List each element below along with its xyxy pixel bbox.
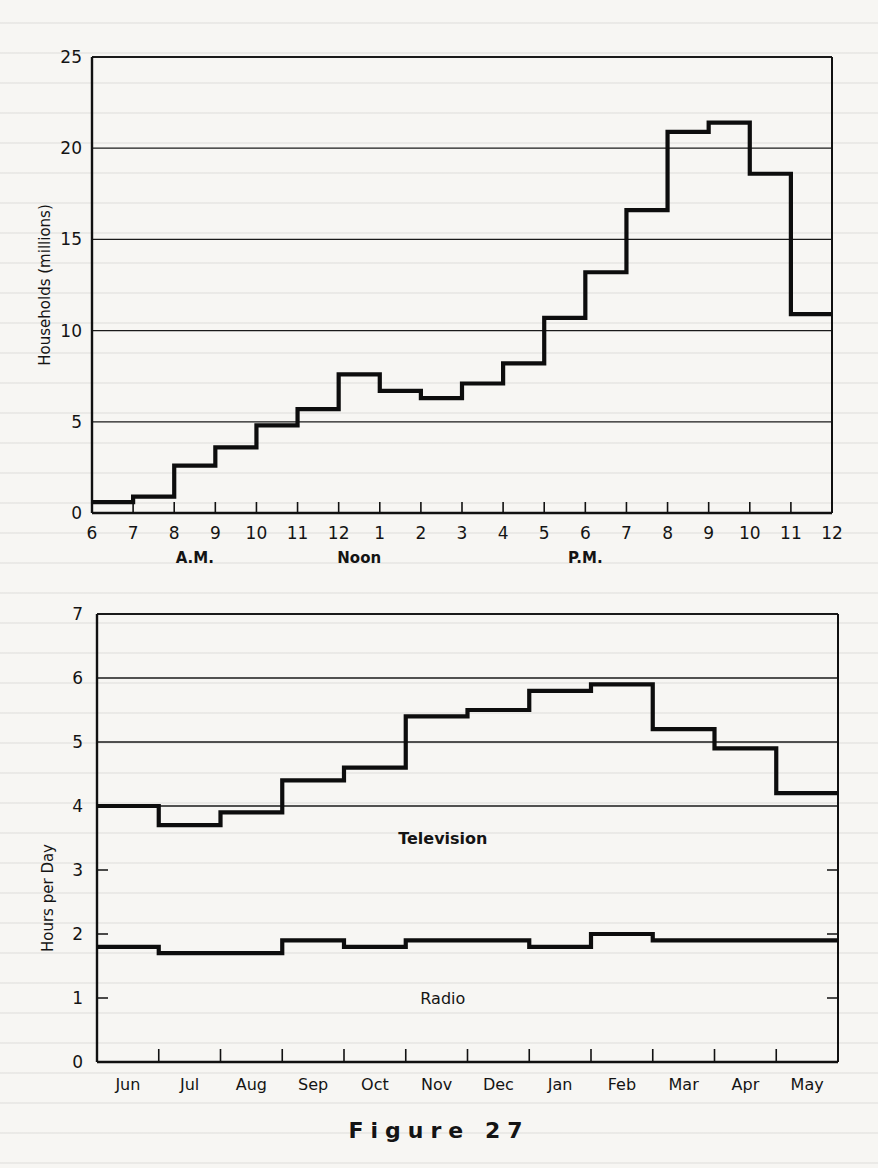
figure-caption: Figure 27 bbox=[0, 1118, 878, 1143]
x-tick-label: Jul bbox=[179, 1075, 199, 1094]
x-tick-label: Aug bbox=[236, 1075, 267, 1094]
series-annotation: Television bbox=[398, 829, 487, 848]
y-tick-label: 6 bbox=[72, 668, 83, 688]
y-tick-label: 4 bbox=[72, 796, 83, 816]
x-tick-label: Nov bbox=[421, 1075, 452, 1094]
x-tick-label: Apr bbox=[732, 1075, 760, 1094]
x-tick-label: Mar bbox=[669, 1075, 700, 1094]
x-tick-label: Jun bbox=[114, 1075, 140, 1094]
y-tick-label: 0 bbox=[72, 1052, 83, 1072]
x-tick-label: Sep bbox=[298, 1075, 328, 1094]
x-tick-label: Feb bbox=[608, 1075, 636, 1094]
x-tick-label: May bbox=[791, 1075, 824, 1094]
y-tick-label: 3 bbox=[72, 860, 83, 880]
x-tick-label: Dec bbox=[483, 1075, 514, 1094]
x-tick-label: Jan bbox=[547, 1075, 573, 1094]
y-tick-label: 7 bbox=[72, 604, 83, 624]
hours-per-day-chart: 01234567Hours per DayJunJulAugSepOctNovD… bbox=[0, 0, 878, 1110]
series-annotation: Radio bbox=[420, 989, 465, 1008]
y-tick-label: 5 bbox=[72, 732, 83, 752]
series-line-television bbox=[97, 684, 838, 825]
y-tick-label: 1 bbox=[72, 988, 83, 1008]
series-line-radio bbox=[97, 934, 838, 953]
y-axis-title: Hours per Day bbox=[39, 844, 57, 952]
x-tick-label: Oct bbox=[361, 1075, 389, 1094]
y-tick-label: 2 bbox=[72, 924, 83, 944]
